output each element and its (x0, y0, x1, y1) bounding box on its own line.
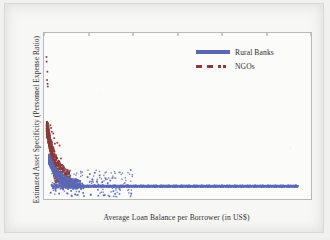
data-point (119, 194, 120, 195)
data-point (96, 182, 97, 183)
data-point (107, 179, 108, 180)
data-point (48, 131, 50, 133)
data-point (54, 143, 56, 145)
data-point (62, 185, 63, 186)
data-point (46, 61, 48, 63)
data-point (49, 146, 51, 148)
data-point (125, 177, 126, 178)
legend-item-rural-banks: Rural Banks (196, 47, 274, 58)
data-point (120, 174, 121, 175)
data-point (82, 171, 83, 172)
data-point (77, 183, 78, 184)
data-point (107, 182, 109, 184)
data-point (129, 174, 130, 175)
data-point (59, 145, 61, 147)
data-point (49, 133, 51, 135)
chart-legend: Rural Banks NGOs (196, 47, 274, 75)
data-point (64, 181, 65, 182)
data-point (131, 189, 132, 190)
data-point (46, 123, 48, 125)
data-point (74, 185, 75, 186)
data-point (114, 196, 115, 197)
data-point (127, 190, 128, 191)
data-point (86, 186, 87, 187)
data-point (63, 180, 65, 182)
data-point (53, 162, 55, 164)
data-point (116, 196, 117, 197)
data-point (128, 185, 129, 186)
data-point (113, 190, 115, 192)
data-point (57, 170, 59, 172)
x-tick-mark (311, 33, 312, 36)
data-point (77, 194, 79, 196)
data-point (55, 167, 57, 169)
data-point (103, 185, 104, 186)
x-tick-mark (222, 33, 223, 36)
data-point (83, 195, 85, 197)
data-point (60, 158, 62, 160)
data-point (55, 178, 56, 179)
data-point (75, 181, 77, 183)
data-point (93, 175, 94, 176)
legend-label-ngos: NGOs (235, 62, 255, 71)
y-axis-title: Estimated Asset Specificity (Personnel E… (32, 27, 41, 213)
data-point (76, 172, 77, 173)
data-point (61, 181, 62, 182)
data-point (53, 170, 54, 171)
data-point (50, 192, 52, 194)
data-point (58, 180, 60, 182)
data-point (54, 154, 56, 156)
data-point (67, 170, 69, 172)
data-point (76, 191, 77, 192)
data-point (55, 182, 57, 184)
data-point (46, 130, 48, 132)
data-point (67, 193, 68, 194)
data-point (87, 170, 88, 171)
data-point (47, 83, 49, 85)
data-point (107, 195, 108, 196)
y-tick-mark (43, 180, 44, 181)
data-point (53, 171, 55, 173)
data-point (49, 157, 51, 159)
data-point (74, 187, 76, 189)
data-point (99, 171, 100, 172)
data-point (75, 174, 76, 175)
data-point (66, 182, 68, 184)
data-point (111, 186, 112, 187)
data-point (71, 181, 72, 182)
data-point (51, 163, 53, 165)
data-point (101, 178, 102, 179)
data-point (46, 56, 48, 58)
data-point (64, 177, 65, 178)
data-point (49, 138, 51, 140)
data-point (73, 184, 75, 186)
data-point (46, 127, 48, 129)
y-tick-mark (43, 143, 44, 144)
data-point (105, 179, 106, 180)
data-point (113, 177, 114, 178)
data-point (53, 190, 54, 191)
data-point (112, 177, 113, 178)
legend-key-ngos (196, 61, 230, 72)
data-point (61, 178, 62, 179)
data-point (111, 172, 112, 173)
data-point (47, 86, 49, 88)
data-point (72, 189, 73, 190)
data-point (99, 175, 101, 177)
data-point (64, 174, 66, 176)
data-point (50, 149, 52, 151)
data-point (132, 176, 133, 177)
x-tick-mark (266, 33, 267, 36)
data-point (87, 176, 89, 178)
series-rural-banks-band (51, 183, 299, 190)
data-point (92, 178, 93, 179)
data-point (102, 185, 103, 186)
data-point (51, 152, 53, 154)
data-point (95, 170, 96, 171)
data-point (55, 165, 57, 167)
data-point (102, 189, 103, 190)
data-point (50, 124, 52, 126)
data-point (48, 143, 50, 145)
data-point (115, 188, 116, 189)
data-point (89, 182, 90, 183)
